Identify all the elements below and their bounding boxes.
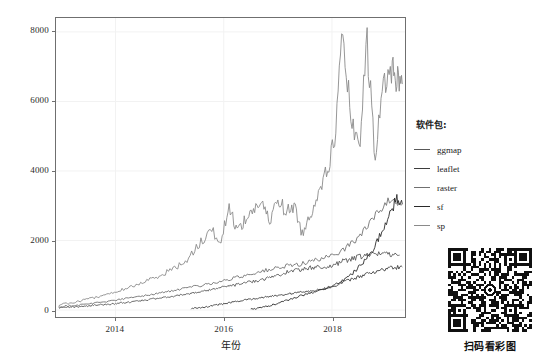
figure-container: 下载量 02000400060008000 201420162018 年份 软件… bbox=[0, 0, 543, 361]
legend-item-sf[interactable]: sf bbox=[414, 197, 486, 216]
y-tick-label: 0 bbox=[3, 305, 49, 315]
legend: 软件包: ggmapleafletrastersfsp bbox=[414, 118, 486, 235]
legend-title: 软件包: bbox=[416, 118, 486, 131]
y-axis-title: 下载量 bbox=[6, 0, 20, 28]
legend-key-line-icon bbox=[414, 206, 430, 207]
legend-key-line-icon bbox=[414, 149, 430, 150]
y-tick-label: 8000 bbox=[3, 25, 49, 35]
x-tick-label: 2018 bbox=[313, 324, 353, 334]
legend-item-sp[interactable]: sp bbox=[414, 216, 486, 235]
legend-key-line-icon bbox=[414, 225, 430, 226]
legend-items: ggmapleafletrastersfsp bbox=[414, 140, 486, 235]
x-tick-mark bbox=[224, 318, 225, 321]
legend-key-line-icon bbox=[414, 168, 430, 169]
legend-item-label: sp bbox=[437, 221, 445, 231]
y-tick-label: 4000 bbox=[3, 165, 49, 175]
series-lines bbox=[56, 18, 405, 317]
qr-block: 扫码看彩图 bbox=[448, 248, 533, 353]
series-line-leaflet bbox=[191, 265, 402, 309]
legend-item-label: leaflet bbox=[437, 164, 459, 174]
legend-key-line-icon bbox=[414, 187, 430, 188]
x-axis-title: 年份 bbox=[55, 337, 406, 352]
legend-item-raster[interactable]: raster bbox=[414, 178, 486, 197]
y-tick-label: 2000 bbox=[3, 235, 49, 245]
y-tick-label: 6000 bbox=[3, 95, 49, 105]
series-line-ggmap bbox=[59, 252, 400, 309]
x-tick-mark bbox=[115, 318, 116, 321]
qr-code-image[interactable] bbox=[448, 248, 532, 332]
series-line-sp bbox=[59, 28, 403, 306]
plot-panel bbox=[55, 17, 406, 318]
legend-item-label: sf bbox=[437, 202, 444, 212]
legend-item-label: raster bbox=[437, 183, 457, 193]
x-tick-mark bbox=[333, 318, 334, 321]
legend-item-leaflet[interactable]: leaflet bbox=[414, 159, 486, 178]
legend-item-label: ggmap bbox=[437, 145, 462, 155]
x-tick-label: 2014 bbox=[95, 324, 135, 334]
legend-item-ggmap[interactable]: ggmap bbox=[414, 140, 486, 159]
x-tick-label: 2016 bbox=[204, 324, 244, 334]
qr-caption: 扫码看彩图 bbox=[448, 338, 532, 353]
